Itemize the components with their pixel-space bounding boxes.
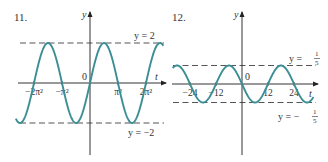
reference-label-y-max: y = 2 [134,30,155,41]
x-tick-label: −π² [55,87,68,97]
fraction-numerator: 1 [313,108,317,116]
reference-label-y-min: y = −2 [128,127,154,138]
reference-label-prefix: y = [289,53,303,64]
fraction-numerator: 1 [315,50,319,58]
y-axis-label: y [233,9,239,20]
y-axis-label: y [81,9,87,20]
fraction-denominator: 5 [313,117,317,125]
graph-11: 11. y = 2 y = −2 y t 0 −2π²−π²π²2π² [14,9,166,155]
t-axis-label: t [155,71,158,82]
figure: 11. y = 2 y = −2 y t 0 −2π²−π²π²2π² 12. … [0,0,328,162]
fraction-denominator: 5 [315,59,319,67]
x-tick-label: 2π² [140,87,153,97]
problem-number-11: 11. [14,11,28,23]
x-tick-label: −2π² [25,87,43,97]
reference-label-y-max: y = 1 5 [289,50,320,67]
reference-label-y-min: y = − 1 5 [278,108,318,125]
graph-12: 12. y = 1 5 y = − 1 5 y t 0 −24−121224 [172,9,320,155]
origin-label: 0 [82,71,87,82]
origin-label: 0 [245,71,250,82]
reference-label-prefix: y = − [278,111,300,122]
problem-number-12: 12. [172,11,186,23]
t-axis-label: t [309,88,312,99]
